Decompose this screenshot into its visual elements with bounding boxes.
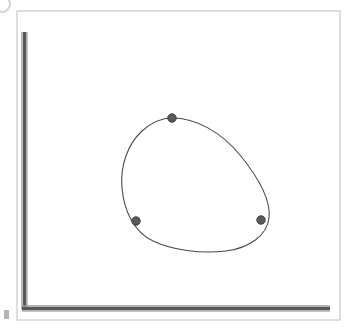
figure-canvas <box>0 0 357 330</box>
figure-container <box>0 0 357 330</box>
left-edge-smudge <box>4 310 9 319</box>
point-top <box>168 114 176 122</box>
point-right <box>257 216 265 224</box>
point-left <box>132 217 140 225</box>
page-background <box>0 0 357 330</box>
